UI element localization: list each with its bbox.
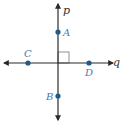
point-b xyxy=(55,93,60,98)
point-a-label: A xyxy=(62,27,70,38)
point-c-label: C xyxy=(24,48,32,59)
point-d xyxy=(86,60,91,65)
point-b-label: B xyxy=(45,91,53,102)
line-q-label: q xyxy=(113,56,120,69)
right-angle-marker xyxy=(58,52,69,63)
line-p-label: p xyxy=(63,4,70,17)
point-c xyxy=(25,60,30,65)
point-a xyxy=(55,29,60,34)
perpendicular-lines-diagram: p q ABCD xyxy=(0,0,122,123)
point-d-label: D xyxy=(84,67,93,78)
